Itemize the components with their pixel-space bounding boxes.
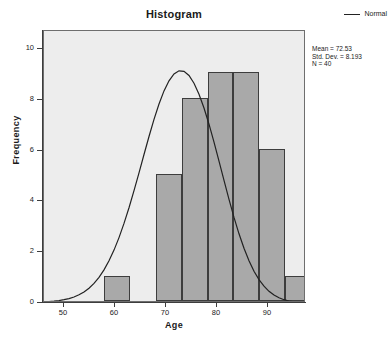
x-tick-mark xyxy=(165,303,166,307)
y-axis-title: Frequency xyxy=(11,95,21,185)
legend-line-icon xyxy=(344,14,360,15)
plot-inner xyxy=(44,31,304,301)
y-tick-label: 2 xyxy=(0,247,34,255)
statistics-annotation: Mean = 72.53 Std. Dev. = 8.193 N = 40 xyxy=(312,45,388,68)
x-tick-label: 90 xyxy=(254,308,280,317)
x-tick-mark xyxy=(267,303,268,307)
legend: Normal xyxy=(344,10,387,18)
x-tick-label: 50 xyxy=(50,308,76,317)
y-tick-mark xyxy=(37,99,42,100)
y-tick-mark xyxy=(37,251,42,252)
y-tick-label: 0 xyxy=(0,298,34,306)
chart-title: Histogram xyxy=(43,8,305,20)
y-tick-mark xyxy=(37,150,42,151)
normal-curve xyxy=(44,31,304,301)
plot-area xyxy=(43,30,305,302)
y-tick-label: 4 xyxy=(0,196,34,204)
x-tick-label: 70 xyxy=(152,308,178,317)
x-tick-mark xyxy=(216,303,217,307)
x-tick-label: 80 xyxy=(203,308,229,317)
x-tick-mark xyxy=(114,303,115,307)
y-tick-mark xyxy=(37,200,42,201)
y-tick-mark xyxy=(37,48,42,49)
y-tick-mark xyxy=(37,302,42,303)
x-tick-mark xyxy=(63,303,64,307)
stat-std-dev: Std. Dev. = 8.193 xyxy=(312,53,388,61)
histogram-figure: Histogram Normal 0 2 4 6 8 10 xyxy=(0,0,391,349)
y-tick-label: 10 xyxy=(0,44,34,52)
legend-label-normal: Normal xyxy=(364,10,387,18)
x-tick-label: 60 xyxy=(101,308,127,317)
stat-n: N = 40 xyxy=(312,60,388,68)
stat-mean: Mean = 72.53 xyxy=(312,45,388,53)
x-axis-title: Age xyxy=(43,320,305,330)
y-axis-line xyxy=(42,30,43,303)
